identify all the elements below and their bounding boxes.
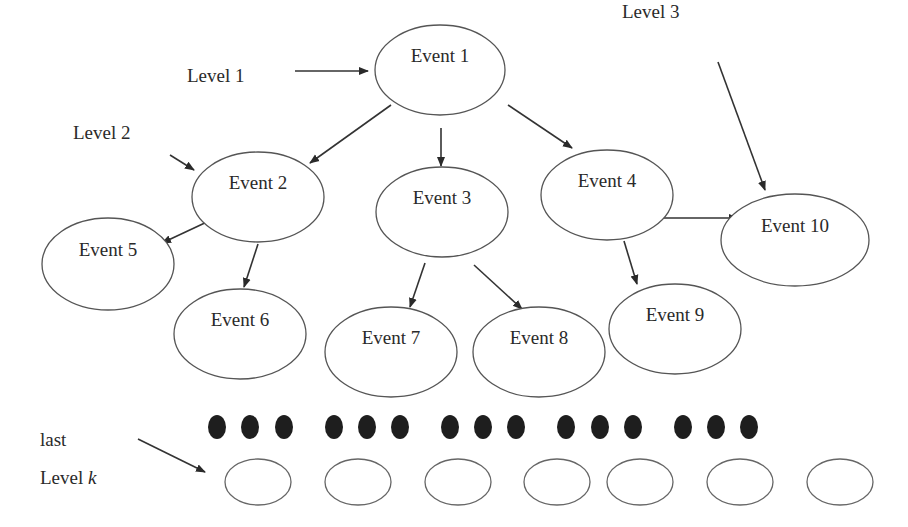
node-label: Event 4: [578, 170, 637, 191]
edge-arrow-e4-to-e9: [624, 241, 637, 284]
node-label: Event 7: [362, 327, 421, 348]
ellipsis-dot: [707, 415, 725, 439]
ellipsis-dot: [391, 415, 409, 439]
edge-arrow-e3-to-e8: [474, 265, 522, 309]
node-ellipse: [375, 25, 505, 115]
node-label: Event 8: [510, 327, 569, 348]
node-label: Event 10: [761, 215, 829, 236]
node-ellipse: [721, 194, 869, 286]
edge-arrow-e1-to-e4: [508, 105, 572, 148]
ellipsis-dot: [275, 415, 293, 439]
node-ellipse: [609, 284, 741, 374]
last-level-label: lastLevel k: [40, 429, 205, 488]
last-level-variable-k: k: [88, 467, 97, 488]
node-e9: Event 9: [609, 284, 741, 374]
ellipsis-dot: [441, 415, 459, 439]
node-e3: Event 3: [376, 167, 508, 257]
last-level-node-placeholder: [325, 459, 391, 505]
node-e2: Event 2: [192, 152, 324, 242]
ellipsis-dot: [325, 415, 343, 439]
edge-arrow-e3-to-e7: [410, 263, 425, 307]
edge-arrow-e1-to-e2: [310, 105, 391, 163]
node-ellipse: [541, 150, 673, 240]
node-ellipse: [376, 167, 508, 257]
ellipsis-dot: [241, 415, 259, 439]
ellipsis-dot: [474, 415, 492, 439]
node-label: Event 2: [229, 172, 288, 193]
ellipsis-dot: [507, 415, 525, 439]
level-label-level2: Level 2: [73, 122, 194, 170]
node-e5: Event 5: [42, 218, 174, 310]
last-level-placeholders-layer: [225, 459, 873, 505]
node-ellipse: [174, 289, 306, 379]
last-level-node-placeholder: [225, 459, 291, 505]
node-e8: Event 8: [473, 307, 605, 397]
ellipsis-dot: [624, 415, 642, 439]
ellipsis-dot: [557, 415, 575, 439]
ellipsis-dot: [358, 415, 376, 439]
node-ellipse: [192, 152, 324, 242]
node-ellipse: [473, 307, 605, 397]
level-label-text: Level 1: [187, 65, 245, 86]
node-e4: Event 4: [541, 150, 673, 240]
node-e6: Event 6: [174, 289, 306, 379]
last-level-node-placeholder: [807, 459, 873, 505]
node-e7: Event 7: [325, 307, 457, 397]
level-label-level1: Level 1: [187, 65, 368, 86]
nodes-layer: Event 1Event 2Event 3Event 4Event 5Event…: [42, 25, 869, 397]
ellipsis-dot: [591, 415, 609, 439]
last-level-pointer-arrow: [138, 439, 205, 472]
last-level-line2: Level k: [40, 467, 97, 488]
last-level-prefix: Level: [40, 467, 88, 488]
node-e1: Event 1: [375, 25, 505, 115]
node-label: Event 9: [646, 304, 705, 325]
last-level-node-placeholder: [524, 459, 590, 505]
node-label: Event 5: [79, 239, 138, 260]
node-label: Event 6: [211, 309, 270, 330]
level-label-text: Level 3: [622, 1, 680, 22]
level-pointer-arrow: [170, 155, 194, 170]
level-pointer-arrow: [718, 62, 765, 190]
last-level-node-placeholder: [707, 459, 773, 505]
ellipsis-dot: [674, 415, 692, 439]
node-ellipse: [325, 307, 457, 397]
ellipsis-dots-layer: [208, 415, 758, 439]
node-label: Event 3: [413, 187, 472, 208]
last-level-node-placeholder: [607, 459, 673, 505]
node-ellipse: [42, 218, 174, 310]
edge-arrow-e2-to-e5: [162, 221, 209, 243]
level-label-text: Level 2: [73, 122, 131, 143]
event-hierarchy-diagram: Event 1Event 2Event 3Event 4Event 5Event…: [0, 0, 908, 527]
last-level-line1: last: [40, 429, 67, 450]
last-level-node-placeholder: [425, 459, 491, 505]
edge-arrow-e2-to-e6: [244, 244, 258, 287]
node-e10: Event 10: [721, 194, 869, 286]
ellipsis-dot: [740, 415, 758, 439]
node-label: Event 1: [411, 45, 470, 66]
ellipsis-dot: [208, 415, 226, 439]
